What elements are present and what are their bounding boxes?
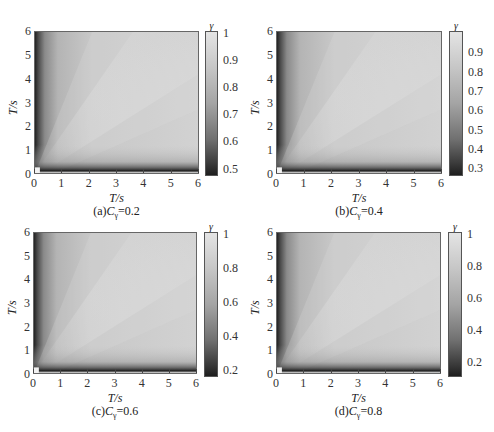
y-tick-label: 4 <box>259 273 273 285</box>
x-axis-label-text: T/s <box>109 191 124 205</box>
x-tick-mark <box>169 369 170 373</box>
x-tick-mark <box>440 369 441 373</box>
y-tick-label: 0 <box>16 368 30 380</box>
x-tick-mark <box>115 369 116 373</box>
x-tick-label: 0 <box>273 177 279 189</box>
x-tick-mark <box>60 369 61 373</box>
x-tick-label: 6 <box>193 377 199 389</box>
colorbar-label: γ <box>453 221 457 232</box>
x-tick-mark <box>414 169 415 173</box>
caption-variable: C <box>349 404 357 418</box>
colorbar-label: γ <box>210 20 214 31</box>
x-tick-label: 5 <box>411 177 417 189</box>
colorbar <box>448 232 462 377</box>
colorbar-tick-label: 0.5 <box>223 163 238 175</box>
x-tick-label: 0 <box>31 177 37 189</box>
caption-prefix: (d) <box>335 404 349 418</box>
x-tick-label: 0 <box>30 377 36 389</box>
caption-value: =0.8 <box>360 404 382 418</box>
x-tick-label: 2 <box>328 177 334 189</box>
heatmap-plot-area <box>34 31 199 174</box>
y-tick-label: 1 <box>17 144 31 156</box>
x-tick-label: 6 <box>437 377 443 389</box>
y-tick-label: 4 <box>17 73 31 85</box>
panel-caption: (c)Cγ=0.6 <box>92 404 139 420</box>
y-tick-label: 2 <box>259 120 273 132</box>
heatmap-plot-area <box>276 31 442 174</box>
x-tick-mark <box>331 169 332 173</box>
x-tick-label: 4 <box>383 177 389 189</box>
caption-value: =0.2 <box>118 204 140 218</box>
y-tick-label: 6 <box>17 25 31 37</box>
colorbar-tick-label: 1 <box>467 228 473 240</box>
colorbar-tick-label: 0.9 <box>468 46 483 58</box>
y-tick-label: 1 <box>259 144 273 156</box>
x-tick-label: 5 <box>410 377 416 389</box>
colorbar-tick-label: 0.6 <box>223 135 238 147</box>
x-tick-mark <box>303 369 304 373</box>
caption-prefix: (c) <box>92 404 105 418</box>
x-axis-label-text: T/s <box>351 391 366 405</box>
x-tick-mark <box>61 169 62 173</box>
x-tick-mark <box>276 369 277 373</box>
y-tick-label: 4 <box>16 273 30 285</box>
colorbar-tick-label: 0.9 <box>223 54 238 66</box>
x-tick-label: 6 <box>438 177 444 189</box>
x-tick-label: 4 <box>382 377 388 389</box>
colorbar-tick-label: 0.6 <box>467 292 482 304</box>
x-tick-label: 3 <box>356 177 362 189</box>
x-tick-mark <box>89 169 90 173</box>
x-tick-label: 2 <box>84 377 90 389</box>
y-tick-label: 5 <box>259 250 273 262</box>
x-tick-label: 2 <box>328 377 334 389</box>
x-tick-mark <box>304 169 305 173</box>
x-tick-mark <box>87 369 88 373</box>
colorbar-tick-label: 0.4 <box>223 330 238 342</box>
panel-caption: (a)Cγ=0.2 <box>93 204 140 220</box>
x-tick-label: 1 <box>301 177 307 189</box>
x-tick-label: 5 <box>166 377 172 389</box>
caption-variable: C <box>349 204 357 218</box>
colorbar-tick-label: 0.4 <box>467 324 482 336</box>
x-tick-mark <box>358 369 359 373</box>
x-tick-label: 4 <box>140 177 146 189</box>
colorbar <box>449 31 463 176</box>
x-tick-mark <box>359 169 360 173</box>
x-tick-label: 5 <box>168 177 174 189</box>
colorbar <box>204 232 218 377</box>
colorbar-tick-label: 0.8 <box>223 262 238 274</box>
y-axis-label: T/s <box>248 100 263 115</box>
x-tick-mark <box>413 369 414 373</box>
y-tick-label: 2 <box>259 321 273 333</box>
x-tick-label: 6 <box>195 177 201 189</box>
colorbar-tick-label: 0.6 <box>468 104 483 116</box>
y-tick-label: 2 <box>16 321 30 333</box>
caption-prefix: (a) <box>93 204 106 218</box>
x-tick-mark <box>198 169 199 173</box>
y-tick-label: 0 <box>259 368 273 380</box>
x-tick-mark <box>33 369 34 373</box>
heatmap-plot-area <box>33 232 197 374</box>
y-tick-label: 5 <box>17 49 31 61</box>
x-tick-mark <box>385 369 386 373</box>
y-tick-label: 4 <box>259 73 273 85</box>
x-tick-label: 1 <box>300 377 306 389</box>
colorbar-tick-label: 0.4 <box>468 143 483 155</box>
x-tick-label: 3 <box>113 177 119 189</box>
colorbar-tick-label: 0.3 <box>468 162 483 174</box>
colorbar-tick-label: 0.7 <box>468 85 483 97</box>
x-tick-mark <box>143 169 144 173</box>
y-tick-label: 2 <box>17 120 31 132</box>
colorbar-tick-label: 0.6 <box>223 296 238 308</box>
colorbar-tick-label: 0.2 <box>467 356 482 368</box>
x-tick-label: 1 <box>58 177 64 189</box>
x-tick-label: 3 <box>355 377 361 389</box>
heatmap-plot-area <box>276 232 441 374</box>
colorbar <box>205 31 218 176</box>
y-axis-label: T/s <box>248 300 263 315</box>
y-axis-label: T/s <box>5 300 20 315</box>
x-tick-label: 2 <box>86 177 92 189</box>
x-tick-mark <box>276 169 277 173</box>
colorbar-tick-label: 0.7 <box>223 108 238 120</box>
colorbar-tick-label: 0.5 <box>468 124 483 136</box>
